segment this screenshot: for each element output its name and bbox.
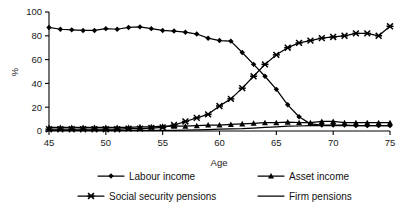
marker-diamond [103,26,108,31]
marker-x [216,103,223,109]
legend-label: Labour income [129,171,196,182]
y-tick-label: 0 [37,125,42,136]
marker-diamond [183,30,188,35]
x-axis-title: Age [211,157,228,168]
x-tick-label: 70 [328,137,339,148]
marker-diamond [217,38,222,43]
marker-diamond [160,28,165,33]
marker-diamond [194,31,199,36]
marker-x [227,96,234,102]
x-tick-label: 55 [157,137,168,148]
x-tick-label: 45 [44,137,55,148]
marker-x [375,33,382,39]
marker-diamond [115,27,120,32]
y-tick-label: 80 [31,30,42,41]
marker-x [261,61,268,67]
marker-diamond [137,24,142,29]
marker-x [273,52,280,58]
legend-label: Social security pensions [109,191,216,202]
legend-item-firm-pensions: Firm pensions [258,191,352,202]
series-asset-income [46,118,393,129]
series-labour-income [46,24,392,128]
plot-series-group [46,23,394,132]
marker-diamond [80,28,85,33]
legend-item-social-security-pensions: Social security pensions [78,191,216,202]
marker-x [330,34,337,40]
marker-x [352,31,359,37]
marker-x [387,23,394,29]
marker-x [341,33,348,39]
chart-legend: Labour incomeAsset incomeSocial security… [78,171,352,202]
marker-x [239,85,246,91]
x-tick-label: 50 [101,137,112,148]
x-tick-label: 75 [385,137,396,148]
x-axis-tick-labels: 45505560657075 [44,137,396,148]
legend-label: Asset income [289,171,349,182]
marker-diamond [108,173,113,178]
marker-x [364,31,371,37]
y-axis-title: % [9,67,20,76]
y-tick-label: 20 [31,102,42,113]
marker-x [205,111,212,117]
marker-diamond [46,25,51,30]
y-tick-label: 40 [31,78,42,89]
marker-x [318,35,325,41]
marker-diamond [171,28,176,33]
legend-item-labour-income: Labour income [98,171,196,182]
marker-x [307,38,314,44]
marker-diamond [149,26,154,31]
legend-label: Firm pensions [289,191,352,202]
marker-x [296,40,303,46]
marker-x [250,73,257,79]
marker-diamond [69,27,74,32]
x-tick-label: 60 [214,137,225,148]
marker-x [284,45,291,51]
y-axis-tick-labels: 020406080100 [26,6,42,136]
marker-x [88,193,95,199]
marker-diamond [92,28,97,33]
line-chart: 020406080100 45505560657075 % Age Labour… [0,0,410,218]
marker-diamond [58,27,63,32]
chart-figure: 020406080100 45505560657075 % Age Labour… [0,0,410,218]
y-tick-label: 60 [31,54,42,65]
marker-diamond [205,35,210,40]
y-tick-label: 100 [26,6,42,17]
x-tick-label: 65 [271,137,282,148]
marker-diamond [126,25,131,30]
legend-item-asset-income: Asset income [258,171,349,182]
marker-x [193,115,200,121]
